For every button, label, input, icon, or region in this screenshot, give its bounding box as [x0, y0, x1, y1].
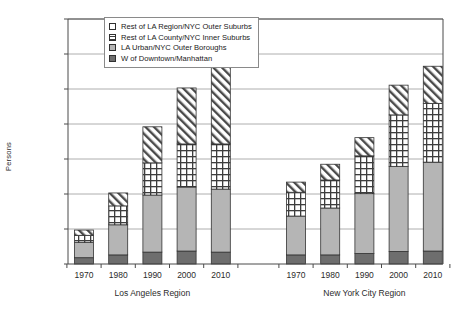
x-tick-label: 1980 [109, 270, 128, 280]
chart-legend: Rest of LA Region/NYC Outer SuburbsRest … [104, 17, 259, 68]
bar-segment [109, 206, 128, 225]
bar-segment [109, 193, 128, 206]
bar-segment [177, 144, 196, 187]
bar-segment [423, 66, 442, 103]
bar-segment [177, 187, 196, 251]
bar-segment [143, 195, 162, 252]
bar-segment [75, 242, 94, 257]
bar-segment [423, 103, 442, 162]
bar-segment [75, 230, 94, 235]
bar-segment [109, 225, 128, 255]
x-tick-label: 1970 [75, 270, 94, 280]
bar-segment [143, 252, 162, 264]
x-tick-label: 1970 [287, 270, 306, 280]
legend-item: Rest of LA Region/NYC Outer Suburbs [109, 22, 252, 32]
bar-segment [287, 182, 306, 192]
bar-segment [75, 258, 94, 264]
x-tick-label: 2010 [211, 270, 230, 280]
x-tick-label: 2010 [423, 270, 442, 280]
bar-segment [321, 180, 340, 208]
bar-segment [389, 166, 408, 251]
bar-segment [321, 255, 340, 264]
bar-segment [423, 251, 442, 264]
bar-segment [287, 216, 306, 255]
bar-segment [321, 164, 340, 180]
bar-segment [287, 255, 306, 264]
legend-swatch-icon [109, 55, 116, 62]
x-tick-label: 1980 [321, 270, 340, 280]
x-tick-label: 1990 [355, 270, 374, 280]
bar-segment [109, 255, 128, 264]
bar-segment [321, 208, 340, 255]
x-tick-label: 2000 [177, 270, 196, 280]
legend-item: W of Downtown/Manhattan [109, 53, 252, 63]
y-axis-title: Persons [4, 142, 13, 171]
bar-segment [355, 254, 374, 265]
legend-label: W of Downtown/Manhattan [121, 54, 212, 63]
legend-swatch-icon [109, 23, 116, 30]
x-tick-label: 1990 [143, 270, 162, 280]
legend-label: Rest of LA Region/NYC Outer Suburbs [121, 22, 252, 31]
chart-figure: 01,000,0002,000,0003,000,0004,000,0005,0… [0, 0, 459, 321]
bar-segment [177, 251, 196, 264]
bar-segment [389, 115, 408, 166]
bar-segment [211, 144, 230, 189]
group-label: Los Angeles Region [115, 288, 191, 298]
bar-segment [143, 127, 162, 163]
bar-segment [423, 162, 442, 251]
legend-swatch-icon [109, 34, 116, 41]
legend-label: LA Urban/NYC Outer Boroughs [121, 43, 227, 52]
bar-segment [287, 192, 306, 216]
group-label: New York City Region [323, 288, 405, 298]
bar-segment [143, 163, 162, 195]
bar-segment [211, 67, 230, 144]
bar-segment [355, 194, 374, 254]
legend-item: Rest of LA County/NYC Inner Suburbs [109, 32, 252, 42]
bars-layer [75, 66, 443, 264]
bar-segment [389, 251, 408, 264]
bar-segment [211, 252, 230, 264]
bar-segment [211, 189, 230, 252]
bar-segment [75, 235, 94, 242]
bar-segment [177, 88, 196, 144]
bar-segment [355, 156, 374, 194]
legend-item: LA Urban/NYC Outer Boroughs [109, 43, 252, 53]
bar-segment [389, 85, 408, 115]
x-tick-label: 2000 [389, 270, 408, 280]
legend-label: Rest of LA County/NYC Inner Suburbs [121, 33, 250, 42]
bar-segment [355, 138, 374, 156]
legend-swatch-icon [109, 44, 116, 51]
